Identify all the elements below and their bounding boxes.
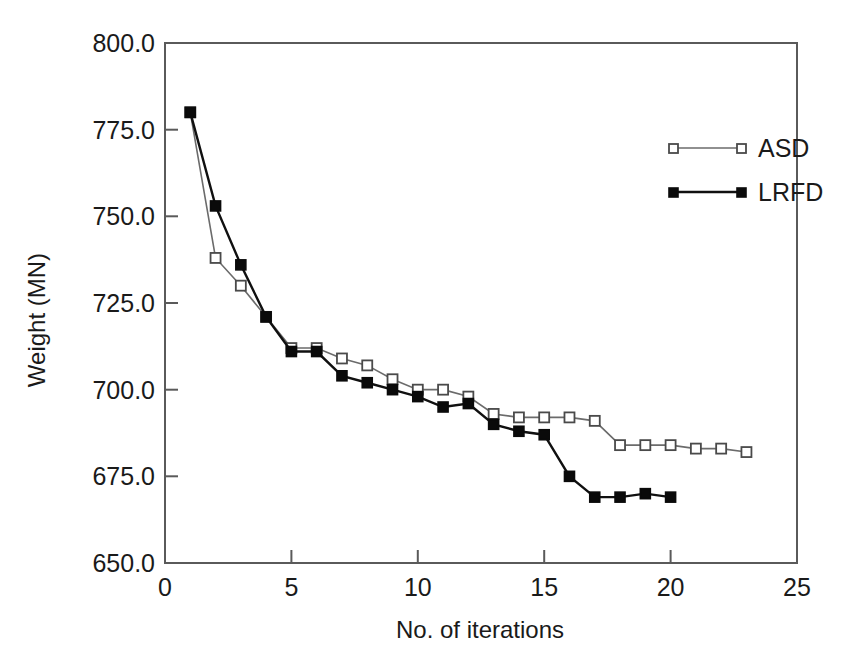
y-tick-label: 750.0: [92, 202, 155, 230]
x-axis-tick-labels: 0 5 10 15 20 25: [158, 573, 811, 601]
data-point-asd: [716, 444, 726, 454]
y-axis-title: Weight (MN): [23, 253, 50, 387]
x-tick-label: 5: [284, 573, 298, 601]
data-point-asd: [564, 412, 574, 422]
series-line-lrfd: [190, 112, 670, 497]
data-point-lrfd: [413, 392, 423, 402]
data-point-lrfd: [438, 402, 448, 412]
x-tick-label: 10: [404, 573, 432, 601]
legend-marker-asd: [669, 144, 678, 153]
data-point-asd: [741, 447, 751, 457]
data-point-lrfd: [514, 426, 524, 436]
data-point-lrfd: [388, 385, 398, 395]
data-point-asd: [514, 412, 524, 422]
legend: ASD LRFD: [669, 134, 823, 206]
y-tick-label: 800.0: [92, 29, 155, 57]
x-tick-label: 20: [657, 573, 685, 601]
data-point-lrfd: [185, 107, 195, 117]
x-tick-label: 25: [783, 573, 811, 601]
data-point-lrfd: [362, 378, 372, 388]
y-tick-label: 650.0: [92, 549, 155, 577]
y-tick-label: 725.0: [92, 289, 155, 317]
data-point-lrfd: [640, 489, 650, 499]
legend-marker-lrfd: [669, 188, 678, 197]
data-point-lrfd: [666, 492, 676, 502]
data-point-lrfd: [615, 492, 625, 502]
y-axis-tick-labels: 800.0 775.0 750.0 725.0 700.0 675.0 650.…: [92, 29, 155, 577]
data-point-asd: [388, 374, 398, 384]
data-point-asd: [539, 412, 549, 422]
weight-vs-iterations-line-chart: 800.0 775.0 750.0 725.0 700.0 675.0 650.…: [0, 0, 852, 665]
y-axis-ticks: [165, 43, 178, 563]
data-point-asd: [691, 444, 701, 454]
data-point-lrfd: [564, 471, 574, 481]
data-point-asd: [438, 385, 448, 395]
x-axis-ticks: [165, 550, 797, 563]
data-series-layer: [185, 107, 751, 502]
data-point-lrfd: [489, 419, 499, 429]
data-point-asd: [615, 440, 625, 450]
data-point-lrfd: [463, 399, 473, 409]
data-point-asd: [590, 416, 600, 426]
data-point-asd: [666, 440, 676, 450]
data-point-lrfd: [539, 430, 549, 440]
data-point-lrfd: [286, 347, 296, 357]
data-point-asd: [236, 281, 246, 291]
y-tick-label: 700.0: [92, 376, 155, 404]
x-tick-label: 15: [530, 573, 558, 601]
data-point-asd: [362, 360, 372, 370]
y-tick-label: 675.0: [92, 462, 155, 490]
data-point-lrfd: [261, 312, 271, 322]
data-point-lrfd: [337, 371, 347, 381]
data-point-lrfd: [211, 201, 221, 211]
y-tick-label: 775.0: [92, 116, 155, 144]
data-point-asd: [337, 353, 347, 363]
data-point-lrfd: [590, 492, 600, 502]
data-point-lrfd: [312, 347, 322, 357]
legend-label-lrfd: LRFD: [758, 178, 823, 206]
x-tick-label: 0: [158, 573, 172, 601]
data-point-asd: [489, 409, 499, 419]
data-point-asd: [211, 253, 221, 263]
data-point-asd: [640, 440, 650, 450]
data-point-lrfd: [236, 260, 246, 270]
legend-marker-lrfd: [737, 188, 746, 197]
legend-marker-asd: [737, 144, 746, 153]
x-axis-title: No. of iterations: [396, 616, 564, 643]
figure-container: 800.0 775.0 750.0 725.0 700.0 675.0 650.…: [0, 0, 852, 665]
legend-label-asd: ASD: [758, 134, 809, 162]
